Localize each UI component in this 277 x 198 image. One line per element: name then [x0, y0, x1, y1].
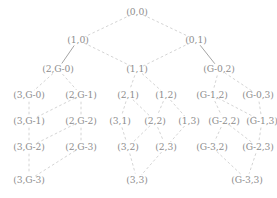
lattice-node: (G-3,2) [196, 142, 228, 151]
lattice-node: (3,3) [126, 175, 147, 184]
lattice-edge-dashed [170, 126, 184, 142]
lattice-node: (2,1) [117, 90, 138, 99]
lattice-node: (1,1) [126, 64, 147, 73]
lattice-node: (G-1,2) [196, 90, 228, 99]
lattice-node: (3,2) [117, 142, 138, 151]
lattice-node: (2,G-0) [42, 64, 74, 73]
lattice-node: (G-3,3) [231, 175, 263, 184]
lattice-edge-dashed [158, 127, 164, 141]
lattice-edge-dashed [215, 101, 221, 115]
lattice-edge-dashed [249, 153, 256, 173]
lattice-node: (2,G-3) [65, 142, 97, 151]
lattice-node: (0,1) [185, 35, 206, 44]
lattice-node: (1,2) [155, 90, 176, 99]
lattice-edge-dashed [84, 15, 131, 37]
lattice-node: (3,G-1) [13, 116, 45, 125]
lattice-node: (3,1) [109, 116, 130, 125]
lattice-edge-dashed [130, 153, 135, 173]
lattice-node: (2,G-1) [65, 90, 97, 99]
lattice-edge-dashed [259, 102, 261, 115]
lattice-edge-solid [62, 46, 74, 64]
lattice-node: (2,G-2) [65, 116, 97, 125]
lattice-edge-dashed [158, 101, 164, 115]
lattice-diagram: (0,0)(1,0)(0,1)(2,G-0)(1,1)(G-0,2)(3,G-0… [0, 0, 277, 198]
lattice-edge-dashed [122, 127, 126, 140]
lattice-edge-dashed [133, 126, 150, 143]
lattice-edge-dashed [130, 75, 135, 88]
lattice-node: (G-0,3) [242, 90, 274, 99]
lattice-node: (3,G-0) [13, 90, 45, 99]
lattice-edge-solid [200, 45, 215, 64]
lattice-node: (1,0) [67, 35, 88, 44]
lattice-node: (3,G-3) [13, 175, 45, 184]
lattice-node: (G-0,2) [203, 64, 235, 73]
lattice-edge-dashed [122, 101, 126, 114]
lattice-edge-dashed [170, 100, 184, 116]
lattice-edge-dashed [34, 73, 53, 90]
lattice-edge-dashed [142, 73, 161, 90]
lattice-edge-dashed [215, 127, 221, 141]
lattice-edge-dashed [141, 152, 161, 175]
lattice-edge-dashed [84, 43, 131, 66]
lattice-node: (2,3) [155, 142, 176, 151]
lattice-edge-dashed [62, 74, 76, 90]
lattice-node: (G-2,2) [208, 116, 240, 125]
lattice-edge-dashed [143, 43, 190, 66]
lattice-edge-dashed [217, 152, 242, 176]
lattice-edge-dashed [35, 151, 76, 177]
lattice-edge-dashed [259, 128, 261, 141]
lattice-node: (1,3) [178, 116, 199, 125]
lattice-edge-dashed [133, 100, 150, 117]
lattice-node: (G-2,3) [242, 142, 274, 151]
lattice-edge-dashed [229, 125, 252, 143]
lattice-edge-dashed [214, 75, 218, 88]
lattice-node: (0,0) [126, 7, 147, 16]
lattice-node: (2,2) [144, 116, 165, 125]
lattice-edge-dashed [143, 15, 190, 37]
lattice-node: (3,G-2) [13, 142, 45, 151]
lattice-node: (G-1,3) [246, 116, 277, 125]
